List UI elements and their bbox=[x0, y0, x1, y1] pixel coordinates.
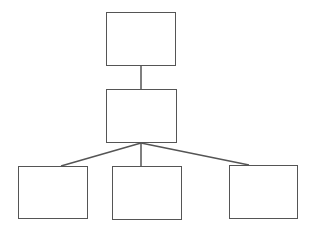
hierarchy-diagram bbox=[0, 0, 314, 232]
connector-line bbox=[61, 143, 141, 166]
connector-line bbox=[141, 143, 249, 165]
root-box bbox=[106, 12, 176, 66]
middle-box bbox=[106, 89, 177, 143]
child-left-box bbox=[18, 166, 88, 219]
child-center-box bbox=[112, 166, 182, 220]
child-right-box bbox=[229, 165, 298, 219]
